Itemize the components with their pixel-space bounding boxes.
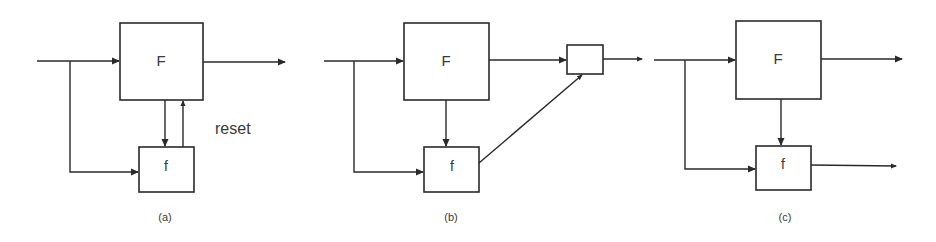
caption-b: (b) bbox=[444, 211, 457, 223]
block-f-label: f bbox=[781, 156, 785, 172]
panel-c: F f (c) bbox=[654, 21, 902, 223]
block-diagram: F f reset (a) F f (b) F f (c) bbox=[0, 0, 936, 242]
block-F-label: F bbox=[441, 52, 450, 69]
reset-label: reset bbox=[215, 120, 251, 137]
block-F-label: F bbox=[773, 50, 782, 67]
combiner-block bbox=[567, 45, 603, 74]
panel-a: F f reset (a) bbox=[37, 23, 285, 223]
block-f-label: f bbox=[164, 158, 168, 174]
caption-a: (a) bbox=[158, 211, 171, 223]
block-F-label: F bbox=[156, 52, 165, 69]
f-to-combiner-arrow bbox=[479, 75, 582, 163]
panel-b: F f (b) bbox=[324, 23, 642, 223]
caption-c: (c) bbox=[779, 211, 792, 223]
block-f-label: f bbox=[450, 158, 454, 174]
f-output-arrow bbox=[811, 165, 896, 166]
